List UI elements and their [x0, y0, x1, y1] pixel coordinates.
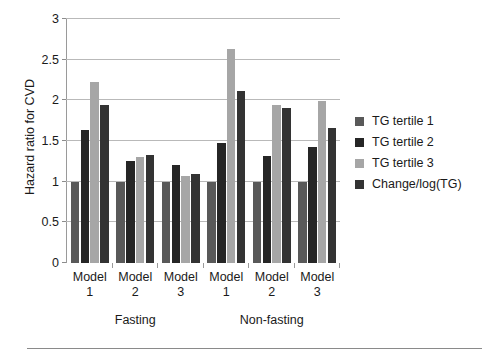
bar[interactable]: [318, 101, 327, 263]
bar-group: [113, 19, 159, 263]
bar[interactable]: [126, 161, 135, 263]
bar-group: [204, 19, 250, 263]
legend-label: TG tertile 2: [372, 135, 434, 149]
x-axis-tick: [339, 263, 340, 268]
y-axis-tick-label: 1.5: [42, 135, 59, 148]
x-axis-tick-label-line: 1: [204, 285, 250, 300]
legend-item[interactable]: Change/log(TG): [355, 177, 462, 191]
y-axis-title: Hazard ratio for CVD: [23, 22, 37, 252]
y-axis-tick: [62, 181, 66, 182]
bar[interactable]: [217, 143, 226, 263]
x-axis-tick-label-line: Model: [113, 270, 159, 285]
bar[interactable]: [172, 165, 181, 263]
y-axis-tick: [62, 140, 66, 141]
y-axis-tick: [62, 99, 66, 100]
bar-group: [158, 19, 204, 263]
x-axis-tick: [112, 263, 113, 268]
bar-group: [67, 19, 113, 263]
y-axis-tick-label: 3: [52, 13, 59, 26]
x-axis-tick-label-line: 1: [67, 285, 113, 300]
bar[interactable]: [308, 147, 317, 263]
bottom-divider: [27, 348, 482, 349]
x-axis-tick-label: Model2: [113, 270, 159, 300]
bar[interactable]: [181, 176, 190, 263]
x-axis-tick-label: Model1: [204, 270, 250, 300]
x-axis-tick: [203, 263, 204, 268]
x-axis-tick-label: Model1: [67, 270, 113, 300]
bar[interactable]: [81, 130, 90, 263]
y-axis-tick-label: 2: [52, 94, 59, 107]
legend-swatch-icon: [355, 138, 364, 147]
y-axis-tick: [62, 59, 66, 60]
bar[interactable]: [116, 182, 125, 263]
bar[interactable]: [227, 49, 236, 263]
bar[interactable]: [298, 182, 307, 263]
legend-label: TG tertile 3: [372, 156, 434, 170]
bar[interactable]: [263, 156, 272, 263]
y-axis-tick-label: 0: [52, 257, 59, 270]
bar-group: [295, 19, 341, 263]
x-axis-group-label: Non-fasting: [204, 313, 341, 327]
bar[interactable]: [191, 174, 200, 263]
x-axis-tick-label-line: Model: [249, 270, 295, 285]
legend-item[interactable]: TG tertile 2: [355, 135, 462, 149]
x-axis-tick-label-line: 2: [249, 285, 295, 300]
bar[interactable]: [282, 108, 291, 263]
bar[interactable]: [272, 105, 281, 263]
x-axis-tick-label: Model2: [249, 270, 295, 300]
legend-swatch-icon: [355, 180, 364, 189]
x-axis-tick-label-line: Model: [295, 270, 341, 285]
legend-swatch-icon: [355, 159, 364, 168]
legend-label: TG tertile 1: [372, 114, 434, 128]
legend-item[interactable]: TG tertile 1: [355, 114, 462, 128]
bar[interactable]: [237, 91, 246, 263]
x-axis-tick-label-line: Model: [67, 270, 113, 285]
x-axis-tick-label-line: Model: [158, 270, 204, 285]
bar-group: [249, 19, 295, 263]
x-axis-tick-label-line: 3: [295, 285, 341, 300]
x-axis-group-labels: FastingNon-fasting: [67, 313, 340, 327]
x-axis-tick-label: Model3: [158, 270, 204, 300]
x-axis-group-label: Fasting: [67, 313, 204, 327]
x-axis-tick-labels: Model1Model2Model3Model1Model2Model3: [67, 270, 340, 300]
bar[interactable]: [207, 182, 216, 263]
x-axis-tick-label-line: 2: [113, 285, 159, 300]
y-axis-tick: [62, 18, 66, 19]
bar[interactable]: [90, 82, 99, 263]
chart-figure: Hazard ratio for CVD 00.511.522.53 Model…: [0, 0, 488, 355]
x-axis-tick: [157, 263, 158, 268]
y-axis-tick-label: 1: [52, 175, 59, 188]
y-axis-tick: [62, 221, 66, 222]
x-axis-tick-label-line: 3: [158, 285, 204, 300]
bar[interactable]: [328, 128, 337, 263]
bar[interactable]: [146, 155, 155, 263]
legend-label: Change/log(TG): [372, 177, 462, 191]
y-axis-tick-label: 2.5: [42, 53, 59, 66]
x-axis-tick: [294, 263, 295, 268]
bar[interactable]: [71, 182, 80, 263]
legend-item[interactable]: TG tertile 3: [355, 156, 462, 170]
bar[interactable]: [253, 182, 262, 263]
x-axis-tick-label-line: Model: [204, 270, 250, 285]
y-axis-tick-label: 0.5: [42, 216, 59, 229]
chart-legend: TG tertile 1TG tertile 2TG tertile 3Chan…: [355, 114, 462, 191]
legend-swatch-icon: [355, 117, 364, 126]
y-axis-tick: [62, 262, 66, 263]
x-axis-tick-label: Model3: [295, 270, 341, 300]
x-axis-tick: [248, 263, 249, 268]
bar[interactable]: [100, 105, 109, 263]
bar[interactable]: [136, 157, 145, 263]
plot-area: 00.511.522.53: [66, 19, 340, 263]
bar-series-container: [67, 19, 340, 263]
bar[interactable]: [162, 182, 171, 263]
